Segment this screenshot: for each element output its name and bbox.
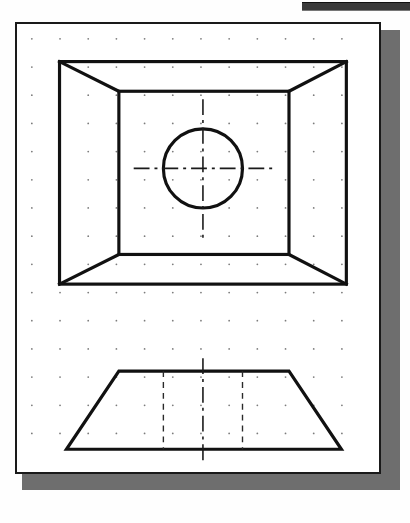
drawing-sheet[interactable] xyxy=(15,22,381,474)
top-view-outer-rect xyxy=(60,62,347,285)
top-view-inner-rect xyxy=(119,91,289,254)
front-view-trapezoid xyxy=(66,371,341,449)
toolbar-strip[interactable] xyxy=(302,2,410,11)
cad-canvas xyxy=(0,0,410,523)
top-view-taper-line xyxy=(289,254,346,284)
top-view-taper-line xyxy=(60,254,119,284)
drawing-geometry xyxy=(17,24,379,471)
top-view-taper-line xyxy=(60,62,119,92)
top-view-taper-line xyxy=(289,62,346,92)
